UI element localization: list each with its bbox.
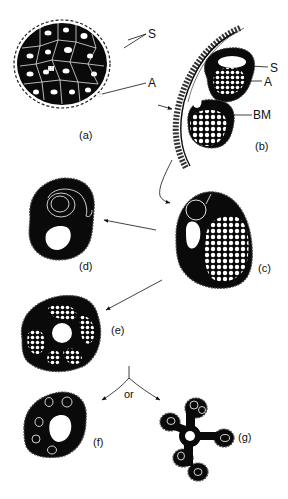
or-label: or	[124, 389, 134, 400]
label-b-A: A	[264, 76, 272, 88]
panel-b-illustration	[160, 28, 268, 203]
panel-g-illustration	[160, 398, 234, 481]
panel-c-illustration	[104, 192, 252, 310]
panel-d-illustration	[29, 178, 94, 260]
panel-b-label: (b)	[255, 141, 268, 152]
label-b-S: S	[270, 62, 278, 74]
panel-e-illustration	[21, 296, 100, 372]
panel-a-label: (a)	[79, 130, 92, 141]
panel-d-label: (d)	[79, 261, 92, 272]
panel-f-illustration	[24, 392, 86, 458]
panel-g-label: (g)	[238, 432, 251, 443]
panel-f-label: (f)	[93, 437, 103, 448]
panel-e-label: (e)	[111, 325, 124, 336]
label-a-S: S	[148, 28, 156, 40]
label-a-A: A	[148, 77, 156, 89]
diagram-artwork	[0, 0, 288, 499]
panel-c-label: (c)	[258, 263, 271, 274]
label-b-BM: BM	[253, 109, 271, 121]
